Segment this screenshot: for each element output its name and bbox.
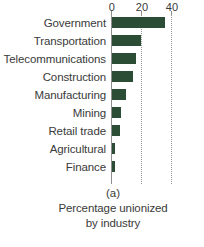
- bar-mining: [112, 107, 121, 118]
- bar-row-agricultural: Agricultural: [0, 140, 204, 158]
- category-label-agricultural: Agricultural: [0, 143, 106, 156]
- bar-row-finance: Finance: [0, 158, 204, 176]
- caption-line-1: Percentage unionized: [22, 201, 204, 216]
- bar-transportation: [112, 35, 141, 46]
- bar-row-mining: Mining: [0, 104, 204, 122]
- bar-retail-trade: [112, 125, 120, 136]
- xtick-label-20: 20: [129, 1, 155, 13]
- bar-government: [112, 17, 165, 28]
- bar-row-retail-trade: Retail trade: [0, 122, 204, 140]
- bar-rows: Government Transportation Telecommunicat…: [0, 14, 204, 184]
- category-label-government: Government: [0, 17, 106, 30]
- bar-construction: [112, 71, 133, 82]
- bar-chart-plot: 0 20 40 Government Transportation Teleco…: [0, 0, 204, 186]
- bar-row-government: Government: [0, 14, 204, 32]
- category-label-transportation: Transportation: [0, 35, 106, 48]
- category-label-telecommunications: Telecommunications: [0, 53, 106, 66]
- figure-panel-a: 0 20 40 Government Transportation Teleco…: [0, 0, 204, 247]
- bar-telecommunications: [112, 53, 136, 64]
- bar-finance: [112, 161, 115, 172]
- xtick-label-40: 40: [159, 1, 185, 13]
- category-label-mining: Mining: [0, 107, 106, 120]
- bar-row-construction: Construction: [0, 68, 204, 86]
- category-label-construction: Construction: [0, 71, 106, 84]
- panel-label: (a): [22, 186, 204, 201]
- xtick-label-0: 0: [99, 1, 125, 13]
- bar-manufacturing: [112, 89, 126, 100]
- bar-row-telecommunications: Telecommunications: [0, 50, 204, 68]
- bar-row-manufacturing: Manufacturing: [0, 86, 204, 104]
- category-label-finance: Finance: [0, 161, 106, 174]
- bar-agricultural: [112, 143, 115, 154]
- category-label-manufacturing: Manufacturing: [0, 89, 106, 102]
- caption-line-2: by industry: [22, 216, 204, 231]
- bar-row-transportation: Transportation: [0, 32, 204, 50]
- category-label-retail-trade: Retail trade: [0, 125, 106, 138]
- figure-caption: (a) Percentage unionized by industry: [0, 186, 204, 231]
- source-note: [3, 240, 203, 247]
